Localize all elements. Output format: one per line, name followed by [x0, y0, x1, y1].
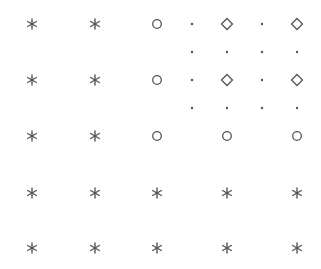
marker-row-7 — [28, 243, 302, 253]
circle-marker — [153, 132, 162, 141]
marker-row-5 — [28, 131, 302, 141]
dot-marker — [226, 107, 228, 109]
asterisk-marker — [153, 243, 162, 253]
asterisk-marker — [28, 75, 37, 85]
asterisk-marker — [293, 243, 302, 253]
circle-marker — [223, 132, 232, 141]
dot-marker — [191, 107, 193, 109]
circle-marker — [293, 132, 302, 141]
circle-marker — [153, 20, 162, 29]
asterisk-marker — [153, 188, 162, 198]
asterisk-marker — [223, 243, 232, 253]
diamond-marker — [292, 75, 303, 86]
asterisk-marker — [91, 75, 100, 85]
asterisk-marker — [91, 188, 100, 198]
diamond-marker — [222, 75, 233, 86]
diamond-marker — [222, 19, 233, 30]
asterisk-marker — [293, 188, 302, 198]
marker-row-1 — [28, 19, 303, 30]
dot-marker — [261, 51, 263, 53]
marker-row-2 — [191, 51, 298, 53]
diamond-marker — [292, 19, 303, 30]
dot-marker — [191, 79, 193, 81]
dot-marker — [261, 107, 263, 109]
asterisk-marker — [28, 243, 37, 253]
marker-row-3 — [28, 75, 303, 86]
asterisk-marker — [91, 19, 100, 29]
asterisk-marker — [223, 188, 232, 198]
asterisk-marker — [91, 131, 100, 141]
dot-marker — [191, 23, 193, 25]
dot-marker — [226, 51, 228, 53]
asterisk-marker — [28, 131, 37, 141]
marker-row-4 — [191, 107, 298, 109]
dot-marker — [296, 107, 298, 109]
asterisk-marker — [91, 243, 100, 253]
dot-marker — [261, 79, 263, 81]
dot-marker — [261, 23, 263, 25]
node-lattice-diagram — [0, 0, 321, 269]
marker-row-6 — [28, 188, 302, 198]
dot-marker — [296, 51, 298, 53]
dot-marker — [191, 51, 193, 53]
circle-marker — [153, 76, 162, 85]
asterisk-marker — [28, 188, 37, 198]
asterisk-marker — [28, 19, 37, 29]
